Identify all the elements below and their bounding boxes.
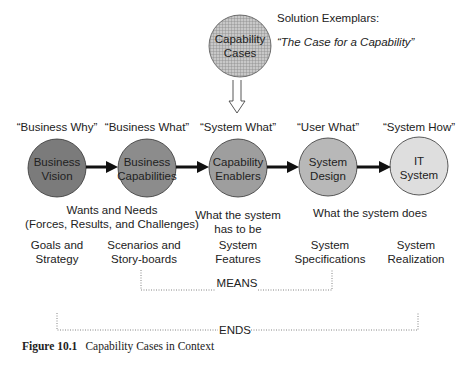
stage-quote: “System How” <box>369 120 469 134</box>
output-line: System <box>366 238 466 252</box>
exemplar-title: Solution Exemplars: <box>277 12 379 24</box>
circle-line: Design <box>288 169 368 183</box>
wants-and-needs: Wants and Needs (Forces, Results, and Ch… <box>12 203 212 231</box>
stage-output: Scenarios and Story-boards <box>94 238 194 266</box>
circle-line: Business <box>17 155 97 169</box>
system-does: What the system does <box>300 206 440 220</box>
output-line: System <box>280 238 380 252</box>
stage-quote: “Business What” <box>97 120 197 134</box>
system-design-label: System Design <box>288 155 368 183</box>
stage-quote: “System What” <box>188 120 288 134</box>
circle-line: System <box>379 168 459 182</box>
figure-number: Figure 10.1 <box>22 340 77 352</box>
figure-title: Capability Cases in Context <box>85 340 214 352</box>
stage-quote: “Business Why” <box>7 120 107 134</box>
circle-line: Capability <box>198 155 278 169</box>
capability-enablers-label: Capability Enablers <box>198 155 278 183</box>
output-line: Features <box>188 252 288 266</box>
output-line: Story-boards <box>94 252 194 266</box>
stage-output: System Realization <box>366 238 466 266</box>
circle-line: Vision <box>17 169 97 183</box>
circle-line: IT <box>379 154 459 168</box>
has-to-be-line1: What the system <box>188 208 288 222</box>
wants-line1: Wants and Needs <box>12 203 212 217</box>
output-line: Scenarios and <box>94 238 194 252</box>
means-label: MEANS <box>207 276 267 290</box>
business-vision-label: Business Vision <box>17 155 97 183</box>
circle-line: Business <box>107 155 187 169</box>
output-line: Goals and <box>7 238 107 252</box>
output-line: Realization <box>366 252 466 266</box>
circle-line: Capabilities <box>107 169 187 183</box>
down-arrow-icon <box>229 80 245 113</box>
business-capabilities-label: Business Capabilities <box>107 155 187 183</box>
output-line: Strategy <box>7 252 107 266</box>
capability-cases-line1: Capability <box>210 32 270 46</box>
circle-line: System <box>288 155 368 169</box>
it-system-label: IT System <box>379 154 459 182</box>
figure-caption: Figure 10.1Capability Cases in Context <box>22 340 214 352</box>
exemplar-quote: “The Case for a Capability” <box>277 36 414 48</box>
stage-output: System Features <box>188 238 288 266</box>
output-line: Specifications <box>280 252 380 266</box>
has-to-be-line2: has to be <box>188 222 288 236</box>
stage-quote: “User What” <box>278 120 378 134</box>
stage-output: Goals and Strategy <box>7 238 107 266</box>
stage-output: System Specifications <box>280 238 380 266</box>
circle-line: Enablers <box>198 169 278 183</box>
ends-label: ENDS <box>207 323 263 337</box>
capability-cases-label: Capability Cases <box>210 32 270 60</box>
has-to-be: What the system has to be <box>188 208 288 236</box>
wants-line2: (Forces, Results, and Challenges) <box>12 217 212 231</box>
output-line: System <box>188 238 288 252</box>
capability-cases-line2: Cases <box>210 46 270 60</box>
